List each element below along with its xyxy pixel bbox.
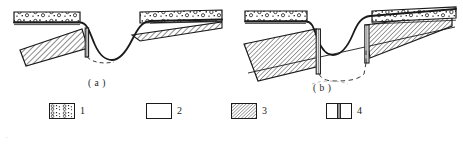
legend-label-2: 2 [177,106,182,116]
panel-b-surface-layer-left [245,11,307,21]
panel-b-drawing [244,7,456,84]
gravel-soil-pattern-swatch-icon [49,103,75,119]
panel-b-slip-surface [319,63,366,81]
panel-a-sliding-mass-right [132,22,222,41]
panel-b-caption: ( b ) [313,83,331,93]
legend-label-4: 4 [357,106,362,116]
legend-item-1: 1 [49,101,85,121]
diagonal-hatch-swatch-icon [231,103,257,119]
legend-label-3: 3 [262,106,267,116]
legend-item-3: 3 [231,101,267,121]
pile-section-swatch-icon [326,103,352,119]
panel-b-sliding-mass-left [244,29,320,81]
figure-legend: 1 2 3 4 [0,101,463,125]
corner-mark: . [6,132,8,140]
legend-item-2: 2 [146,101,182,121]
figure-root: ( a ) ( b ) 1 2 3 [0,0,463,145]
panel-a-surface-layer-left [14,12,80,22]
legend-item-4: 4 [326,101,362,121]
legend-label-1: 1 [80,106,85,116]
blank-white-swatch-icon [146,103,172,119]
panel-a-sliding-mass [20,29,88,66]
panel-a-caption: ( a ) [88,78,106,88]
panel-a-drawing [14,10,222,66]
